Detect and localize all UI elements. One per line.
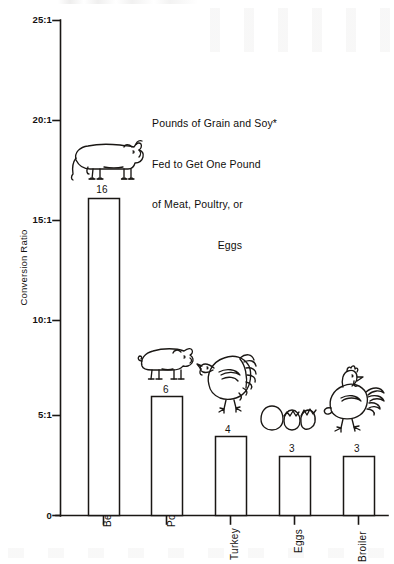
conversion-ratio-bar-chart: Pounds of Grain and Soy* Fed to Get One … — [0, 0, 394, 564]
bar-broiler — [344, 457, 375, 516]
cow-icon — [72, 141, 144, 180]
bar-pork — [152, 397, 183, 516]
bar-turkey — [216, 437, 247, 516]
turkey-icon — [197, 355, 256, 413]
eggs-icon — [261, 406, 316, 430]
bar-beef — [89, 199, 120, 516]
bar-eggs — [280, 457, 311, 516]
chart-plot-area — [0, 0, 394, 564]
pig-icon — [138, 349, 193, 379]
rooster-icon — [324, 366, 384, 432]
